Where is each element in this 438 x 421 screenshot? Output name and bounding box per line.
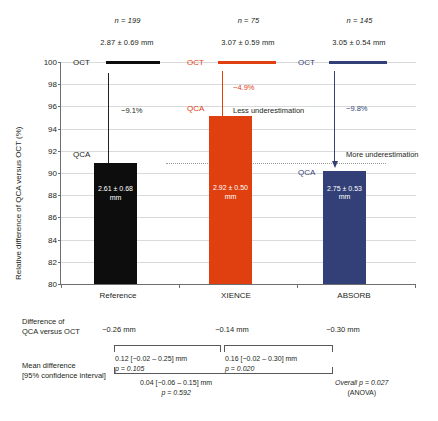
drop-arrow-head-absorb bbox=[332, 161, 338, 168]
qca-label-absorb: QCA bbox=[298, 168, 315, 177]
reference-level-guide bbox=[166, 163, 386, 164]
y-tick-label-100: 100 bbox=[27, 58, 57, 67]
bar-absorb[interactable]: 2.75 ± 0.53 mm bbox=[323, 171, 366, 284]
x-tick-mark-2 bbox=[297, 284, 298, 288]
difference-value-reference: −0.26 mm bbox=[79, 325, 159, 334]
bar-value-xience-line2: mm bbox=[225, 193, 237, 200]
n-label-absorb: n = 145 bbox=[307, 16, 412, 25]
y-tick-label-98: 98 bbox=[27, 80, 57, 89]
oct-diameter-reference: 2.87 ± 0.69 mm bbox=[72, 38, 182, 47]
n-label-xience: n = 75 bbox=[196, 16, 301, 25]
bar-xience[interactable]: 2.92 ± 0.50 mm bbox=[209, 116, 252, 284]
y-tick-mark-94 bbox=[58, 129, 61, 130]
oct-marker-xience bbox=[218, 61, 276, 65]
pairwise-ci-2: 0.16 [−0.02 – 0.30] mm bbox=[225, 355, 297, 362]
mean-difference-row-label-line2: [95% confidence interval] bbox=[22, 371, 106, 380]
oct-diameter-xience: 3.07 ± 0.59 mm bbox=[193, 38, 303, 47]
oct-label-absorb: OCT bbox=[298, 58, 315, 67]
drop-arrow-line-absorb bbox=[334, 71, 335, 163]
bar-value-absorb-line1: 2.75 ± 0.53 bbox=[327, 185, 362, 192]
qca-label-reference: QCA bbox=[73, 150, 90, 159]
mean-difference-row-label: Mean difference [95% confidence interval… bbox=[22, 361, 106, 381]
overall-anova-label: (ANOVA) bbox=[347, 389, 376, 396]
difference-row-label-line2: QCA versus OCT bbox=[22, 327, 80, 336]
bracket-xience-absorb bbox=[224, 345, 333, 352]
difference-value-absorb: −0.30 mm bbox=[303, 325, 383, 334]
bar-value-xience-line1: 2.92 ± 0.50 bbox=[213, 184, 248, 191]
y-tick-mark-92 bbox=[58, 151, 61, 152]
y-tick-label-88: 88 bbox=[27, 191, 57, 200]
drop-arrow-line-xience bbox=[222, 71, 223, 123]
pairwise-ci-1: 0.12 [−0.02 – 0.25] mm bbox=[115, 355, 187, 362]
y-tick-label-80: 80 bbox=[27, 280, 57, 289]
overall-pair-ci: 0.04 [−0.06 – 0.15] mm bbox=[140, 379, 212, 386]
drop-percent-xience: −4.9% bbox=[233, 83, 254, 92]
y-tick-label-82: 82 bbox=[27, 257, 57, 266]
plot-area: 100 98 96 94 92 90 88 86 84 8 bbox=[60, 62, 416, 285]
overall-p-value: Overall p = 0.027 bbox=[335, 379, 389, 386]
x-tick-mark-1 bbox=[179, 284, 180, 288]
oct-marker-absorb bbox=[329, 61, 387, 65]
y-tick-label-96: 96 bbox=[27, 102, 57, 111]
bracket-reference-xience bbox=[114, 345, 221, 352]
y-tick-mark-98 bbox=[58, 84, 61, 85]
y-tick-label-84: 84 bbox=[27, 235, 57, 244]
y-tick-mark-86 bbox=[58, 217, 61, 218]
bar-value-reference: 2.61 ± 0.68 mm bbox=[94, 185, 137, 202]
x-category-reference: Reference bbox=[59, 291, 177, 300]
x-tick-mark-0 bbox=[61, 284, 62, 288]
overall-pair-stats: 0.04 [−0.06 – 0.15] mm p = 0.592 bbox=[140, 378, 212, 398]
note-less-underestimation: Less underestimation bbox=[233, 106, 304, 115]
bar-value-xience: 2.92 ± 0.50 mm bbox=[209, 184, 252, 201]
y-tick-label-90: 90 bbox=[27, 169, 57, 178]
overall-anova-stats: Overall p = 0.027 (ANOVA) bbox=[335, 378, 389, 398]
y-tick-mark-96 bbox=[58, 106, 61, 107]
qca-label-xience: QCA bbox=[187, 104, 204, 113]
bar-reference[interactable]: 2.61 ± 0.68 mm bbox=[94, 163, 137, 284]
drop-percent-reference: −9.1% bbox=[121, 106, 142, 115]
x-tick-mark-3 bbox=[415, 284, 416, 288]
x-category-xience: XIENCE bbox=[177, 291, 295, 300]
overall-pair-p: p = 0.592 bbox=[161, 389, 190, 396]
figure-root: n = 199 n = 75 n = 145 2.87 ± 0.69 mm 3.… bbox=[0, 0, 438, 421]
y-tick-mark-88 bbox=[58, 195, 61, 196]
bar-value-reference-line1: 2.61 ± 0.68 bbox=[98, 185, 133, 192]
bar-value-absorb-line2: mm bbox=[339, 193, 351, 200]
bracket-overall bbox=[114, 367, 333, 374]
y-tick-mark-90 bbox=[58, 173, 61, 174]
oct-label-reference: OCT bbox=[73, 58, 90, 67]
y-tick-mark-84 bbox=[58, 240, 61, 241]
oct-label-xience: OCT bbox=[187, 58, 204, 67]
y-tick-label-94: 94 bbox=[27, 124, 57, 133]
y-tick-mark-82 bbox=[58, 262, 61, 263]
bar-value-reference-line2: mm bbox=[110, 194, 122, 201]
difference-value-xience: −0.14 mm bbox=[192, 325, 272, 334]
bar-value-absorb: 2.75 ± 0.53 mm bbox=[323, 185, 366, 202]
y-tick-label-92: 92 bbox=[27, 146, 57, 155]
oct-diameter-absorb: 3.05 ± 0.54 mm bbox=[304, 38, 414, 47]
y-tick-mark-100 bbox=[58, 62, 61, 63]
note-more-underestimation: More underestimation bbox=[346, 150, 419, 159]
n-label-reference: n = 199 bbox=[75, 16, 180, 25]
drop-percent-absorb: −9.8% bbox=[346, 104, 367, 113]
difference-row-label-line1: Difference of bbox=[22, 317, 64, 326]
y-tick-label-86: 86 bbox=[27, 213, 57, 222]
mean-difference-row-label-line1: Mean difference bbox=[22, 361, 76, 370]
oct-marker-reference bbox=[106, 61, 160, 65]
y-axis-title: Relative difference of QCA versus OCT (%… bbox=[14, 126, 23, 280]
x-category-absorb: ABSORB bbox=[295, 291, 413, 300]
difference-row-label: Difference of QCA versus OCT bbox=[22, 317, 80, 337]
